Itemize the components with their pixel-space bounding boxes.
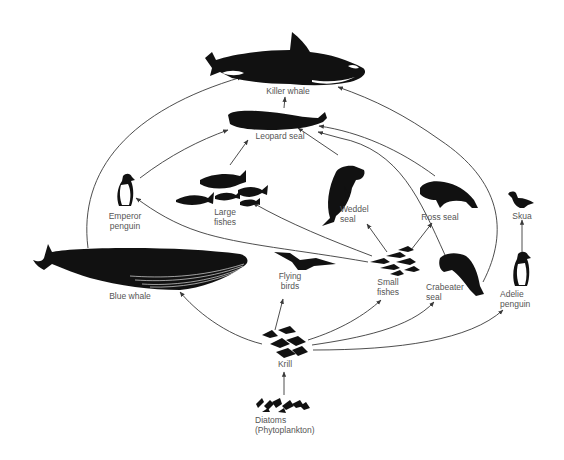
arrow-small-fishes-weddel-seal xyxy=(367,224,387,252)
label-killer-whale: Killer whale xyxy=(258,87,318,97)
label-skua: Skua xyxy=(505,212,539,222)
skua-silhouette xyxy=(508,192,534,208)
diatoms-silhouette xyxy=(256,398,310,413)
arrow-leopard-seal-killer-whale xyxy=(284,97,285,108)
arrow-ross-seal-leopard-seal xyxy=(319,126,435,176)
large-fishes-silhouette xyxy=(176,170,268,206)
label-weddel-seal: Weddel seal xyxy=(340,205,374,224)
label-ross-seal: Ross seal xyxy=(415,213,465,223)
label-emperor-penguin: Emperor penguin xyxy=(100,212,150,231)
arrow-small-fishes-ross-seal xyxy=(411,223,432,250)
emperor-penguin-silhouette xyxy=(117,174,135,206)
label-adelie-penguin: Adelie penguin xyxy=(500,290,534,309)
label-blue-whale: Blue whale xyxy=(100,292,160,302)
label-flying-birds: Flying birds xyxy=(270,272,310,291)
arrow-krill-blue-whale xyxy=(180,292,262,344)
flying-birds-silhouette xyxy=(274,252,336,270)
arrow-krill-crabeater-seal xyxy=(312,302,434,345)
label-crabeater-seal: Crabeater seal xyxy=(426,283,476,302)
adelie-penguin-silhouette xyxy=(513,252,531,286)
arrow-emperor-penguin-leopard-seal xyxy=(140,130,228,178)
killer-whale-silhouette xyxy=(205,32,365,85)
label-diatoms: Diatoms (Phytoplankton) xyxy=(255,416,325,435)
label-large-fishes: Large fishes xyxy=(200,208,250,227)
ross-seal-silhouette xyxy=(420,181,478,208)
arrow-krill-adelie-penguin xyxy=(313,310,503,350)
leopard-seal-silhouette xyxy=(228,111,327,130)
arrow-crabeater-seal-killer-whale xyxy=(338,87,497,282)
label-small-fishes: Small fishes xyxy=(368,278,408,297)
blue-whale-silhouette xyxy=(33,244,247,290)
food-web-diagram xyxy=(0,0,564,460)
krill-silhouette xyxy=(262,326,308,358)
label-leopard-seal: Leopard seal xyxy=(245,132,315,142)
label-krill: Krill xyxy=(270,360,300,370)
arrow-krill-flying-birds xyxy=(275,299,283,330)
arrow-large-fishes-leopard-seal xyxy=(230,140,248,165)
small-fishes-silhouette xyxy=(370,246,420,276)
